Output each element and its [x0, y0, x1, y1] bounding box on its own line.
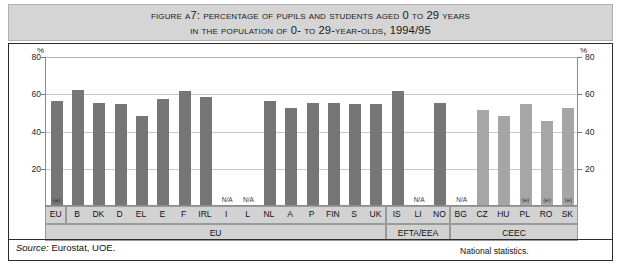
country-label-el: EL — [136, 209, 146, 219]
bar-hu — [498, 116, 510, 205]
y-tick-mark-left-60 — [41, 94, 45, 95]
bar-b — [72, 90, 84, 205]
na-label-li: N/A — [414, 196, 425, 203]
bar-pl: (e) — [520, 104, 532, 205]
bar-is — [392, 91, 404, 205]
figure-title-line-1: Figure A7: Percentage of pupils and stud… — [151, 8, 470, 23]
bar-fin — [328, 103, 340, 205]
y-tick-mark-right-80 — [578, 57, 582, 58]
source-text: Eurostat, UOE. — [51, 242, 115, 253]
country-strip-segment-3 — [450, 206, 578, 224]
bar-irl — [200, 97, 212, 205]
bar-f — [179, 91, 191, 205]
country-label-fin: FIN — [326, 209, 340, 219]
figure-title-band: Figure A7: Percentage of pupils and stud… — [8, 4, 613, 41]
na-label-i: N/A — [222, 196, 233, 203]
country-label-uk: UK — [370, 209, 382, 219]
bar-sk: (e) — [562, 108, 574, 205]
bar-p — [307, 103, 319, 205]
country-label-cz: CZ — [476, 209, 487, 219]
bar-cz — [477, 110, 489, 205]
country-label-s: S — [351, 209, 357, 219]
country-label-p: P — [309, 209, 315, 219]
y-tick-label-left-40: 40 — [19, 127, 41, 137]
figure-a7-chart-page: Figure A7: Percentage of pupils and stud… — [0, 0, 621, 266]
bar-eu: (e) — [51, 101, 63, 205]
chart-frame: % % (e)N/AN/AN/AN/A(e)(e)(e) 80604020 80… — [8, 43, 613, 261]
na-label-l: N/A — [243, 196, 254, 203]
country-label-is: IS — [393, 209, 401, 219]
y-tick-label-right-40: 40 — [585, 127, 607, 137]
national-statistics-caption: National statistics. — [454, 242, 574, 259]
country-label-f: F — [181, 209, 186, 219]
plot-area: (e)N/AN/AN/AN/A(e)(e)(e) — [45, 57, 578, 206]
country-label-pl: PL — [519, 209, 529, 219]
country-label-a: A — [287, 209, 293, 219]
bar-note-ro: (e) — [543, 197, 550, 203]
country-label-dk: DK — [92, 209, 104, 219]
source-divider — [9, 239, 612, 240]
y-tick-label-right-60: 60 — [585, 89, 607, 99]
country-label-i: I — [225, 209, 227, 219]
country-label-l: L — [245, 209, 250, 219]
bar-no — [434, 103, 446, 205]
y-tick-mark-left-40 — [41, 132, 45, 133]
bar-a — [285, 108, 297, 205]
y-tick-label-right-80: 80 — [585, 52, 607, 62]
bar-el — [136, 116, 148, 205]
y-tick-mark-right-20 — [578, 169, 582, 170]
source-prefix: Source: — [16, 242, 49, 253]
y-tick-mark-left-20 — [41, 169, 45, 170]
bar-dk — [93, 103, 105, 205]
y-tick-label-right-20: 20 — [585, 164, 607, 174]
country-label-bg: BG — [455, 209, 467, 219]
country-label-d: D — [117, 209, 123, 219]
bar-e — [157, 99, 169, 205]
y-tick-label-left-60: 60 — [19, 89, 41, 99]
bar-series: (e)N/AN/AN/AN/A(e)(e)(e) — [46, 57, 577, 205]
bar-ro: (e) — [541, 121, 553, 205]
country-label-sk: SK — [562, 209, 573, 219]
y-tick-label-left-80: 80 — [19, 52, 41, 62]
country-label-b: B — [74, 209, 80, 219]
country-label-strip: EUBDKDELEFIRLILNLAPFINSUKISLINOBGCZHUPLR… — [31, 206, 592, 224]
country-label-eu: EU — [50, 209, 62, 219]
source-note: Source: Eurostat, UOE. — [16, 242, 115, 253]
country-label-ro: RO — [540, 209, 553, 219]
bar-d — [115, 104, 127, 205]
country-label-no: NO — [433, 209, 446, 219]
country-label-irl: IRL — [198, 209, 211, 219]
bar-uk — [370, 104, 382, 205]
bar-note-eu: (e) — [53, 197, 60, 203]
country-label-nl: NL — [263, 209, 274, 219]
bar-s — [349, 104, 361, 205]
country-label-li: LI — [415, 209, 422, 219]
figure-title-line-2: in the population of 0- to 29-year-olds,… — [190, 23, 431, 38]
y-tick-label-left-20: 20 — [19, 164, 41, 174]
bar-nl — [264, 101, 276, 205]
y-tick-mark-right-40 — [578, 132, 582, 133]
y-tick-mark-left-80 — [41, 57, 45, 58]
country-label-e: E — [159, 209, 165, 219]
bar-note-sk: (e) — [565, 197, 572, 203]
country-label-hu: HU — [497, 209, 509, 219]
bar-note-pl: (e) — [522, 197, 529, 203]
na-label-bg: N/A — [456, 196, 467, 203]
y-tick-mark-right-60 — [578, 94, 582, 95]
